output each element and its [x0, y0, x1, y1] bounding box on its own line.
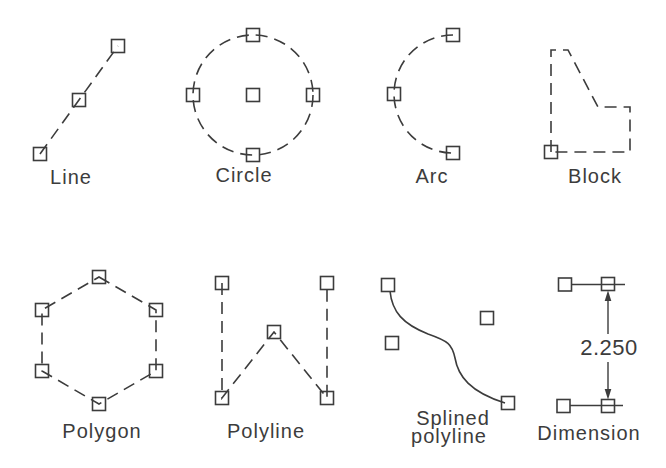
arc-label: Arc — [416, 165, 449, 187]
splined-polyline-figure: Splined polyline — [382, 279, 515, 448]
arc-figure: Arc — [388, 29, 460, 188]
polygon-label: Polygon — [62, 420, 141, 442]
dimension-value: 2.250 — [580, 335, 638, 360]
grip — [321, 277, 334, 290]
grip — [557, 400, 570, 413]
grip — [386, 337, 399, 350]
grip — [481, 312, 494, 325]
dimension-arrow-up — [605, 291, 612, 302]
circle-label: Circle — [215, 164, 272, 186]
polyline-figure: Polyline — [216, 277, 334, 443]
splined-polyline-label-line2: polyline — [411, 425, 487, 447]
dimension-arrow-down — [605, 389, 612, 400]
polygon-entity — [42, 277, 156, 404]
grip — [247, 89, 260, 102]
line-entity — [40, 46, 118, 154]
line-label: Line — [50, 166, 92, 188]
polygon-figure: Polygon — [36, 271, 163, 443]
arc-entity — [394, 35, 453, 153]
splined-polyline-entity — [390, 291, 505, 403]
block-label: Block — [568, 165, 622, 187]
line-figure: Line — [34, 40, 125, 189]
circle-entity — [193, 35, 313, 155]
polyline-entity — [222, 283, 327, 398]
figure-svg: Line Circle Arc Block Polygon — [0, 0, 666, 468]
grip — [559, 278, 572, 291]
block-entity — [551, 50, 630, 152]
polyline-label: Polyline — [227, 420, 305, 442]
grip — [382, 279, 395, 292]
circle-figure: Circle — [187, 29, 320, 187]
block-figure: Block — [545, 50, 631, 187]
dimension-figure: 2.250 Dimension — [537, 278, 640, 445]
grip-entities-figure: Line Circle Arc Block Polygon — [0, 0, 666, 468]
dimension-label: Dimension — [537, 422, 640, 444]
grip — [112, 40, 125, 53]
